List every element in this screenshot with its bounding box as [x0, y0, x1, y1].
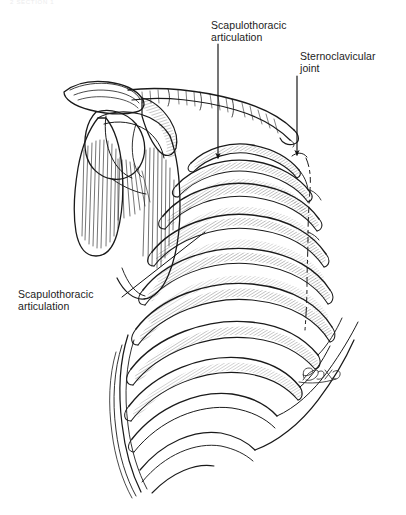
- label-line-1: Scapulothoracic: [18, 288, 93, 300]
- label-line-2: articulation: [18, 300, 93, 312]
- label-scapulothoracic-articulation-left: Scapulothoracic articulation: [18, 288, 93, 312]
- clavicle: [128, 88, 299, 147]
- shoulder-joint: [64, 81, 177, 220]
- label-scapulothoracic-articulation-top: Scapulothoracic articulation: [211, 19, 286, 43]
- anatomical-figure: 2 SECTION 1: [0, 0, 406, 515]
- label-line-1: Sternoclavicular: [300, 50, 376, 62]
- label-line-2: articulation: [211, 31, 286, 43]
- label-line-1: Scapulothoracic: [211, 19, 286, 31]
- ribcage: [110, 144, 358, 498]
- label-line-2: joint: [300, 62, 376, 74]
- artist-signature: [299, 368, 340, 383]
- label-sternoclavicular-joint: Sternoclavicular joint: [300, 50, 376, 74]
- anatomy-illustration: [0, 0, 406, 515]
